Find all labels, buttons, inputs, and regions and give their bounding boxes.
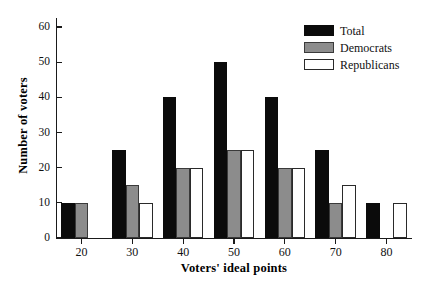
y-tick-label-wrap: 60 (0, 21, 50, 22)
legend-swatch-republicans (304, 59, 334, 70)
bar-total-20 (61, 203, 75, 238)
x-tick-label: 40 (163, 245, 203, 260)
y-tick-label: 10 (24, 197, 50, 209)
legend-swatch-total (304, 25, 334, 36)
x-tick-label: 60 (265, 245, 305, 260)
legend-item-democrats: Democrats (304, 41, 399, 54)
bar-democrats-50 (227, 150, 241, 238)
bar-total-30 (112, 150, 126, 238)
bar-democrats-60 (278, 168, 292, 238)
x-axis-title: Voters' ideal points (56, 261, 412, 276)
x-tick-mark (233, 239, 234, 244)
legend-label: Republicans (340, 59, 399, 71)
x-tick-label: 30 (112, 245, 152, 260)
x-tick-label: 50 (214, 245, 254, 260)
x-tick-mark (284, 239, 285, 244)
bar-republicans-30 (139, 203, 153, 238)
bar-chart-figure: 0102030405060 20304050607080 Number of v… (0, 0, 430, 281)
bar-republicans-50 (241, 150, 255, 238)
bar-total-70 (315, 150, 329, 238)
x-tick-label: 70 (316, 245, 356, 260)
chart-legend: TotalDemocratsRepublicans (304, 24, 399, 71)
bar-republicans-60 (292, 168, 306, 238)
x-tick-label: 80 (367, 245, 407, 260)
bar-total-50 (214, 62, 228, 238)
y-tick-label-wrap: 10 (0, 197, 50, 198)
bar-total-80 (366, 203, 380, 238)
legend-item-republicans: Republicans (304, 58, 399, 71)
x-tick-mark (335, 239, 336, 244)
y-tick-label: 60 (24, 21, 50, 33)
bar-republicans-40 (190, 168, 204, 238)
bar-total-60 (265, 97, 279, 238)
y-tick-label-wrap: 0 (0, 232, 50, 233)
bar-republicans-80 (393, 203, 407, 238)
bar-democrats-40 (176, 168, 190, 238)
x-tick-mark (81, 239, 82, 244)
x-tick-mark (132, 239, 133, 244)
legend-label: Total (340, 25, 365, 37)
y-tick-label: 0 (24, 232, 50, 244)
bar-democrats-70 (329, 203, 343, 238)
legend-label: Democrats (340, 42, 392, 54)
x-tick-label: 20 (61, 245, 101, 260)
legend-item-total: Total (304, 24, 399, 37)
bar-democrats-20 (75, 203, 89, 238)
bar-democrats-30 (126, 185, 140, 238)
bar-republicans-70 (342, 185, 356, 238)
x-tick-mark (386, 239, 387, 244)
y-axis-title: Number of voters (16, 56, 31, 196)
legend-swatch-democrats (304, 42, 334, 53)
x-tick-mark (183, 239, 184, 244)
bar-total-40 (163, 97, 177, 238)
